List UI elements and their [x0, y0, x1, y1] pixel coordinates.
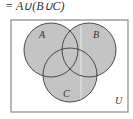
label-a: A — [38, 29, 46, 40]
label-universe: U — [115, 95, 123, 106]
label-b: B — [93, 29, 99, 40]
venn-diagram: A B C U — [0, 0, 133, 119]
label-c: C — [63, 88, 70, 99]
